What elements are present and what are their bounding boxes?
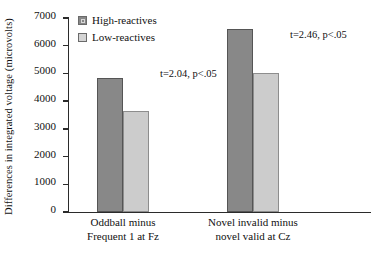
- stat-annotation-group-1: t=2.04, p<.05: [160, 68, 217, 79]
- y-axis-tick-label: 0: [51, 204, 57, 215]
- bar-low-reactives-group-2: [253, 73, 279, 212]
- legend-swatch-icon-low-reactives: [78, 33, 87, 42]
- y-axis-tick-label: 3000: [34, 121, 56, 132]
- legend-label-high-reactives: High-reactives: [92, 15, 157, 26]
- legend-item-low-reactives: Low-reactives: [78, 30, 157, 45]
- bar-chart-figure: Differences in integrated voltage (micro…: [0, 0, 382, 254]
- x-category-line-2: novel valid at Cz: [173, 230, 333, 244]
- stat-annotation-group-2: t=2.46, p<.05: [290, 29, 347, 40]
- y-axis-tick-label: 4000: [34, 93, 56, 104]
- x-category-line-1: Oddball minus: [90, 216, 155, 228]
- bar-high-reactives-group-1: [97, 78, 123, 212]
- legend-swatch-icon-high-reactives: [78, 16, 87, 25]
- legend-label-low-reactives: Low-reactives: [92, 32, 155, 43]
- y-axis-tick-label: 7000: [34, 10, 56, 21]
- legend-item-high-reactives: High-reactives: [78, 13, 157, 28]
- y-axis-title: Differences in integrated voltage (micro…: [0, 0, 16, 232]
- bar-high-reactives-group-2: [227, 29, 253, 212]
- legend: High-reactives Low-reactives: [78, 13, 157, 47]
- y-axis-tick-label: 5000: [34, 65, 56, 76]
- y-axis-tick-label: 6000: [34, 38, 56, 49]
- y-axis-title-text: Differences in integrated voltage (micro…: [3, 18, 14, 215]
- y-axis-tick-label: 2000: [34, 149, 56, 160]
- bar-low-reactives-group-1: [123, 111, 149, 212]
- x-category-line-1: Novel invalid minus: [208, 216, 298, 228]
- y-axis-tick-label: 1000: [34, 176, 56, 187]
- plot-area: t=2.04, p<.05t=2.46, p<.05: [68, 18, 370, 212]
- x-axis-category-label-2: Novel invalid minusnovel valid at Cz: [173, 216, 333, 243]
